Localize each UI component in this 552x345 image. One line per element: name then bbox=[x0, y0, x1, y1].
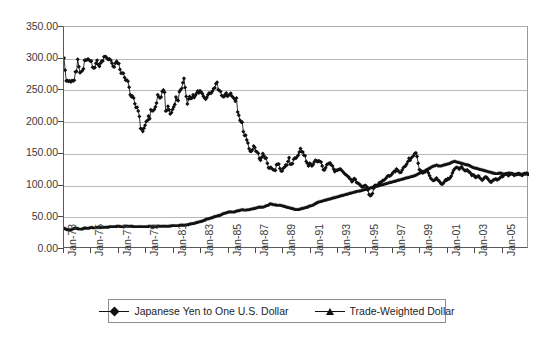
x-axis-tick-label: Jan-87 bbox=[259, 224, 270, 256]
x-axis-tick bbox=[419, 248, 420, 253]
y-axis-tick-label: 100.00 bbox=[26, 179, 58, 190]
y-axis-tick bbox=[58, 89, 63, 90]
x-axis-tick bbox=[365, 248, 366, 253]
y-axis-tick bbox=[58, 216, 63, 217]
plot-area bbox=[63, 26, 528, 248]
y-axis-tick bbox=[58, 58, 63, 59]
y-axis: 0.0050.00100.00150.00200.00250.00300.003… bbox=[0, 0, 58, 280]
x-axis-tick-label: Jan-73 bbox=[67, 224, 78, 256]
y-axis-tick-label: 50.00 bbox=[32, 211, 58, 222]
x-axis-tick bbox=[228, 248, 229, 253]
x-axis-tick bbox=[502, 248, 503, 253]
x-axis-tick bbox=[447, 248, 448, 253]
x-axis-tick-label: Jan-79 bbox=[149, 224, 160, 256]
y-axis-tick-label: 0.00 bbox=[38, 243, 58, 254]
x-axis-tick bbox=[310, 248, 311, 253]
x-axis-tick bbox=[337, 248, 338, 253]
y-axis-tick bbox=[58, 121, 63, 122]
x-axis-tick bbox=[173, 248, 174, 253]
y-axis-tick bbox=[58, 153, 63, 154]
x-axis-tick-label: Jan-95 bbox=[369, 224, 380, 256]
series-line bbox=[64, 56, 529, 195]
y-axis-tick-label: 300.00 bbox=[26, 52, 58, 63]
y-axis-tick-label: 200.00 bbox=[26, 116, 58, 127]
x-axis-tick-label: Jan-05 bbox=[506, 224, 517, 256]
x-axis-tick bbox=[392, 248, 393, 253]
x-axis-tick-label: Jan-85 bbox=[232, 224, 243, 256]
x-axis-tick-label: Jan-03 bbox=[478, 224, 489, 256]
legend-item-yen[interactable]: Japanese Yen to One U.S. Dollar bbox=[99, 306, 288, 317]
x-axis-tick-label: Jan-81 bbox=[177, 224, 188, 256]
series-yen bbox=[64, 54, 529, 197]
y-axis-tick-label: 250.00 bbox=[26, 84, 58, 95]
diamond-marker-icon bbox=[99, 307, 129, 316]
series-layer bbox=[64, 27, 529, 249]
x-axis-tick-label: Jan-75 bbox=[94, 224, 105, 256]
y-axis-tick-label: 150.00 bbox=[26, 147, 58, 158]
x-axis-tick bbox=[118, 248, 119, 253]
series-markers bbox=[64, 54, 529, 197]
y-axis-tick bbox=[58, 185, 63, 186]
x-axis-tick bbox=[200, 248, 201, 253]
x-axis-tick-label: Jan-77 bbox=[122, 224, 133, 256]
legend-label-yen: Japanese Yen to One U.S. Dollar bbox=[134, 306, 288, 317]
legend-label-trade-weighted-dollar: Trade-Weighted Dollar bbox=[350, 306, 455, 317]
x-axis-tick bbox=[255, 248, 256, 253]
y-axis-tick-label: 350.00 bbox=[26, 21, 58, 32]
x-axis-tick-label: Jan-01 bbox=[451, 224, 462, 256]
y-axis-tick bbox=[58, 26, 63, 27]
x-axis-tick-label: Jan-91 bbox=[314, 224, 325, 256]
x-axis-tick bbox=[90, 248, 91, 253]
x-axis-tick bbox=[474, 248, 475, 253]
x-axis-tick-label: Jan-93 bbox=[341, 224, 352, 256]
x-axis-tick-label: Jan-83 bbox=[204, 224, 215, 256]
x-axis-tick-label: Jan-89 bbox=[286, 224, 297, 256]
triangle-marker-icon bbox=[315, 307, 345, 316]
chart-container: 0.0050.00100.00150.00200.00250.00300.003… bbox=[0, 0, 552, 345]
x-axis-tick-label: Jan-97 bbox=[396, 224, 407, 256]
series-line bbox=[64, 161, 529, 230]
legend-item-trade-weighted-dollar[interactable]: Trade-Weighted Dollar bbox=[315, 306, 455, 317]
x-axis-tick bbox=[63, 248, 64, 253]
y-axis-tick bbox=[58, 248, 63, 249]
x-axis-tick-label: Jan-99 bbox=[423, 224, 434, 256]
x-axis-tick bbox=[145, 248, 146, 253]
chart-legend: Japanese Yen to One U.S. Dollar Trade-We… bbox=[108, 299, 446, 323]
x-axis-tick bbox=[282, 248, 283, 253]
